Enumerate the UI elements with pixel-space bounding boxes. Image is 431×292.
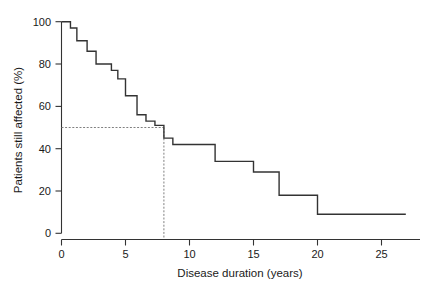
x-tick-label-5: 5 [122, 248, 128, 260]
y-axis-title: Patients still affected (%) [12, 67, 24, 194]
y-tick-label-100: 100 [33, 16, 51, 28]
x-tick-label-0: 0 [58, 248, 64, 260]
x-tick-label-20: 20 [311, 248, 323, 260]
y-axis-tick-labels: 100 80 60 40 20 0 [33, 16, 51, 240]
y-tick-label-40: 40 [39, 143, 51, 155]
survival-step-curve [62, 22, 406, 215]
y-tick-label-20: 20 [39, 185, 51, 197]
x-tick-label-15: 15 [247, 248, 259, 260]
x-axis-tick-labels: 0 5 10 15 20 25 [58, 248, 387, 260]
y-tick-label-60: 60 [39, 100, 51, 112]
y-axis-ticks [56, 22, 62, 234]
x-tick-label-25: 25 [375, 248, 387, 260]
y-tick-label-80: 80 [39, 58, 51, 70]
x-axis-ticks [62, 240, 382, 246]
kaplan-meier-chart: 100 80 60 40 20 0 0 5 10 15 20 25 [0, 0, 431, 292]
x-axis-title: Disease duration (years) [177, 267, 302, 279]
x-tick-label-10: 10 [183, 248, 195, 260]
figure-container: 100 80 60 40 20 0 0 5 10 15 20 25 [0, 0, 431, 292]
y-tick-label-0: 0 [45, 227, 51, 239]
